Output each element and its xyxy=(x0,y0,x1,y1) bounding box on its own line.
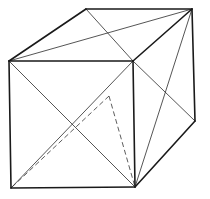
hidden-edge xyxy=(11,96,109,188)
cube-edge xyxy=(133,9,192,61)
cube-edge xyxy=(11,187,135,188)
cube-edge xyxy=(135,121,195,187)
hidden-dashed-lines xyxy=(11,96,135,188)
cube-edge xyxy=(9,61,11,188)
face-diagonal-right xyxy=(133,61,195,121)
face-diagonal-top xyxy=(86,9,133,61)
cube-edge xyxy=(133,61,135,187)
face-diagonal-right xyxy=(135,9,192,187)
cube-diagram xyxy=(0,0,210,199)
cube-edge xyxy=(9,9,86,61)
face-diagonals xyxy=(9,9,195,188)
face-diagonal-top xyxy=(9,9,192,61)
face-diagonal-front xyxy=(11,61,133,188)
hidden-edge xyxy=(109,96,135,187)
cube-edge xyxy=(192,9,195,121)
